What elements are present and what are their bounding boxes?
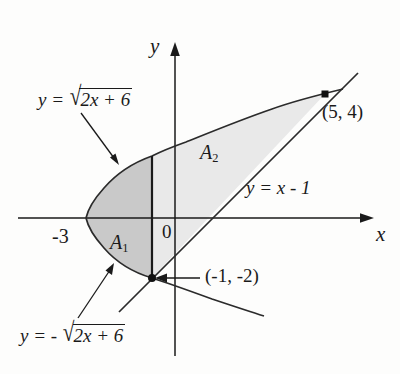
leader-arrow-lower-curve — [78, 263, 114, 318]
upper-curve-lhs: y = — [38, 89, 64, 110]
area-1-label: A1 — [110, 232, 128, 255]
radical-sign-icon: √ — [70, 84, 82, 111]
lower-curve-lhs: y = - — [20, 325, 57, 346]
upper-curve-radical: √2x + 6 — [69, 88, 132, 110]
point-label-minus1-minus2: (-1, -2) — [205, 266, 259, 285]
upper-curve-equation-label: y = √2x + 6 — [38, 88, 132, 110]
area-between-curves-figure: y x 0 -3 A1 A2 y = x - 1 (5, 4) (-1, -2)… — [0, 0, 400, 374]
area-1-subscript: 1 — [122, 241, 128, 255]
radical-sign-icon: √ — [63, 320, 75, 347]
point-label-5-4: (5, 4) — [322, 102, 363, 121]
area-2-symbol: A — [200, 141, 212, 163]
point-marker-minus1-minus2 — [148, 274, 156, 282]
area-2-label: A2 — [200, 142, 218, 165]
area-2-subscript: 2 — [212, 151, 218, 165]
lower-curve-equation-label: y = - √2x + 6 — [20, 324, 125, 346]
lower-curve-radical: √2x + 6 — [62, 324, 125, 346]
line-equation-rhs: x - 1 — [277, 177, 311, 198]
x-intercept-label: -3 — [52, 226, 69, 246]
leader-arrow-upper-curve — [81, 113, 119, 165]
y-axis-arrowhead — [170, 42, 180, 56]
x-axis-label: x — [376, 224, 385, 245]
point-marker-5-4 — [322, 91, 329, 98]
y-axis-label: y — [150, 36, 159, 57]
area-1-symbol: A — [110, 231, 122, 253]
line-equation-lhs: y = — [246, 177, 272, 198]
x-axis-arrowhead — [360, 213, 374, 223]
line-equation-label: y = x - 1 — [246, 178, 311, 197]
upper-curve-radicand: 2x + 6 — [79, 88, 132, 109]
lower-curve-radicand: 2x + 6 — [73, 324, 126, 345]
figure-canvas — [0, 0, 400, 374]
origin-label: 0 — [162, 222, 172, 241]
